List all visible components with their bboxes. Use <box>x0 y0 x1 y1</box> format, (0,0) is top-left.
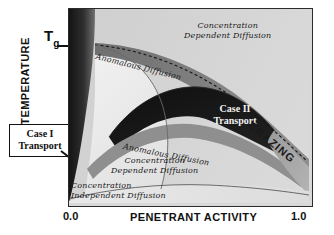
case-ii-line1: Case II <box>200 103 270 115</box>
case-i-line2: Transport <box>12 140 68 152</box>
figure-container: TEMPERATURE Tg Case I Transport <box>0 0 334 235</box>
y-axis-label: TEMPERATURE <box>19 26 31 136</box>
tg-letter: T <box>44 27 53 44</box>
x-axis-label: PENETRANT ACTIVITY <box>130 211 257 223</box>
case-i-transport-callout: Case I Transport <box>9 124 71 157</box>
label-line2: Independent Diffusion <box>71 191 166 201</box>
label-line1: Concentration <box>111 156 198 166</box>
label-line2: Dependent Diffusion <box>184 31 271 41</box>
x-axis-tick-min: 0.0 <box>63 210 78 222</box>
plot-area: Concentration Dependent Diffusion Anomal… <box>68 8 313 207</box>
label-line1: Concentration <box>184 21 271 31</box>
tg-subscript: g <box>53 38 59 49</box>
label-concentration-independent-diffusion: Concentration Independent Diffusion <box>71 181 166 201</box>
x-axis-tick-max: 1.0 <box>291 210 306 222</box>
case-i-line1: Case I <box>12 128 68 140</box>
label-line1: Concentration <box>71 181 166 191</box>
tg-marker: Tg <box>44 27 59 47</box>
label-line2: Dependent Diffusion <box>111 166 198 176</box>
label-concentration-dependent-diffusion-top: Concentration Dependent Diffusion <box>184 21 271 41</box>
label-concentration-dependent-diffusion-mid: Concentration Dependent Diffusion <box>111 156 198 176</box>
